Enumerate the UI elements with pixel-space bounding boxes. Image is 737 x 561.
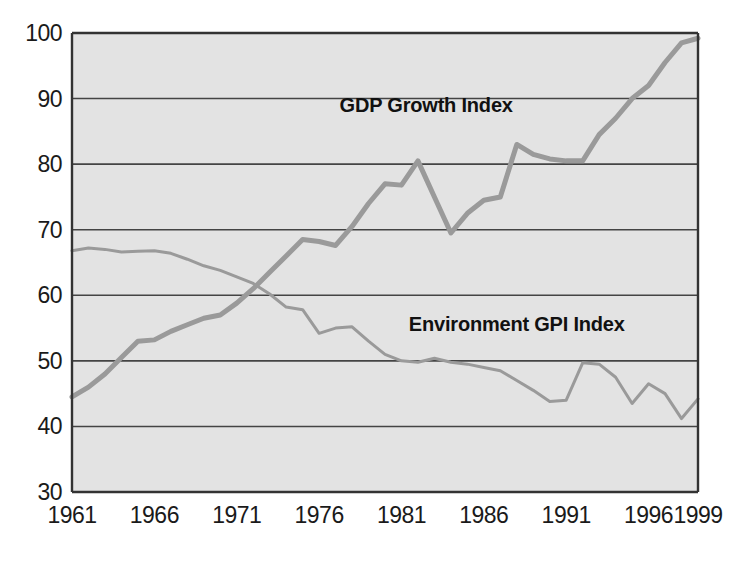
x-tick-label-1996: 1996	[624, 502, 673, 528]
y-tick-label-50: 50	[37, 348, 62, 374]
x-tick-label-1976: 1976	[295, 502, 344, 528]
y-tick-label-90: 90	[37, 86, 62, 112]
chart-container: 30405060708090100 1961196619711976198119…	[0, 0, 737, 561]
x-tick-label-1971: 1971	[212, 502, 261, 528]
x-tick-label-1999: 1999	[673, 502, 722, 528]
y-tick-label-70: 70	[37, 217, 62, 243]
y-tick-label-80: 80	[37, 151, 62, 177]
line-chart: 30405060708090100 1961196619711976198119…	[0, 0, 737, 561]
x-tick-label-1986: 1986	[459, 502, 508, 528]
y-tick-label-40: 40	[37, 413, 62, 439]
x-tick-label-1981: 1981	[377, 502, 426, 528]
annotation-environment-gpi-index: Environment GPI Index	[409, 313, 625, 335]
annotation-gdp-growth-index: GDP Growth Index	[340, 94, 513, 116]
y-tick-label-100: 100	[25, 20, 62, 46]
x-tick-label-1966: 1966	[130, 502, 179, 528]
x-tick-label-1961: 1961	[47, 502, 96, 528]
x-tick-label-1991: 1991	[542, 502, 591, 528]
y-tick-label-60: 60	[37, 282, 62, 308]
